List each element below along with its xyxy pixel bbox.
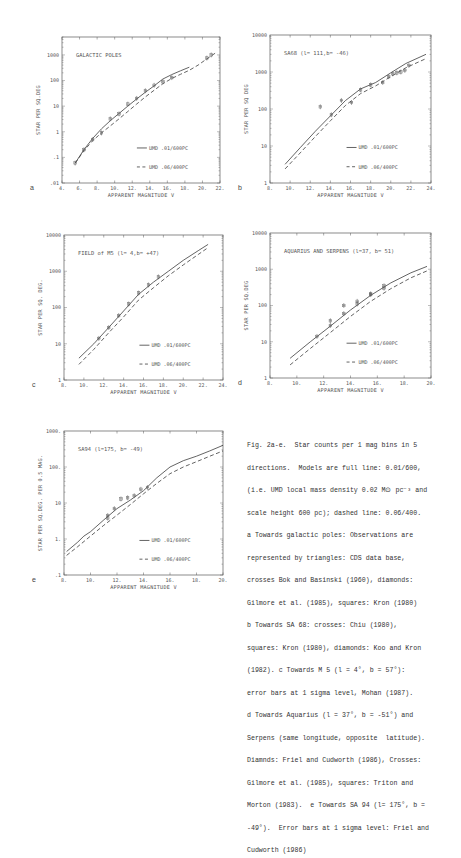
caption-line: Diamnds: Friel and Cudworth (1986), Cros… bbox=[247, 757, 459, 765]
x-tick-label: 16. bbox=[163, 185, 172, 191]
x-tick-label: 24. bbox=[218, 382, 227, 388]
x-tick-label: 14. bbox=[145, 185, 154, 191]
chart-panel-c: 8.10.12.14.16.18.20.22.24.11010010001000… bbox=[32, 232, 228, 395]
x-tick-label: 18. bbox=[159, 382, 168, 388]
legend-solid-label: UMD .01/600PC bbox=[149, 145, 188, 151]
x-tick-label: 10. bbox=[86, 577, 95, 583]
y-axis-title: STAR PER SQ.DEG bbox=[35, 85, 41, 135]
y-axis-title: STAR PER SQ.DEG bbox=[243, 281, 249, 331]
y-tick-label: 1 bbox=[264, 375, 267, 381]
plot-frame bbox=[64, 235, 223, 380]
caption-line: d Towards Aquarius (l = 37°, b = -51°) a… bbox=[247, 712, 459, 720]
caption-line: represented by triangles: CDS data base, bbox=[247, 555, 459, 563]
x-tick-label: 12. bbox=[319, 380, 328, 386]
x-tick-label: 22. bbox=[199, 382, 208, 388]
legend-dashed-label: UMD .06/400PC bbox=[151, 361, 190, 367]
legend-dashed-label: UMD .06/400PC bbox=[359, 359, 398, 365]
plot-frame bbox=[62, 37, 220, 183]
chart-panel-d: 8.10.12.14.16.18.20.110100100010000APPAR… bbox=[238, 230, 436, 393]
caption-line: Morton (1983). e Towards SA 94 (l= 175°,… bbox=[247, 802, 459, 810]
x-tick-label: 10. bbox=[79, 382, 88, 388]
x-tick-label: 8. bbox=[267, 185, 273, 191]
panel-letter: a bbox=[30, 184, 34, 191]
x-tick-label: 14. bbox=[346, 380, 355, 386]
y-tick-label: 10 bbox=[53, 103, 59, 109]
legend-solid-label: UMD .01/600PC bbox=[359, 340, 398, 346]
y-tick-label: 1000 bbox=[49, 268, 61, 274]
x-axis-title: APPARENT MAGNITUDE V bbox=[317, 192, 383, 198]
y-tick-label: .1 bbox=[53, 154, 59, 160]
x-tick-label: 12. bbox=[306, 185, 315, 191]
y-tick-label: 1. bbox=[55, 536, 61, 542]
chart-panel-a: 4.6.8.10.12.14.16.18.20.22..01.111010010… bbox=[30, 37, 225, 198]
model-line-solid bbox=[67, 445, 223, 551]
plot-frame bbox=[270, 233, 431, 378]
chart-panel-b: 8.10.12.14.16.18.20.22.24.11010010001000… bbox=[238, 32, 436, 198]
legend-dashed-label: UMD .06/400PC bbox=[151, 556, 190, 562]
caption-line: Fig. 2a-e. Star counts per 1 mag bins in… bbox=[247, 442, 459, 450]
x-tick-label: 24. bbox=[426, 185, 435, 191]
plot-title: AQUARIUS AND SERPENS (l=37, b= 51) bbox=[284, 248, 394, 254]
x-tick-label: 20. bbox=[386, 185, 395, 191]
y-tick-label: .01 bbox=[50, 180, 59, 186]
plot-title: FIELD of M5 (l= 4,b= +47) bbox=[78, 250, 159, 256]
caption-line: (1982). c Towards M 5 (l = 4°, b = 57°): bbox=[247, 667, 459, 675]
panel-letter: c bbox=[32, 381, 36, 388]
caption-line: error bars at 1 sigma level, Mohan (1987… bbox=[247, 690, 459, 698]
y-tick-label: 10 bbox=[55, 341, 61, 347]
x-tick-label: 8. bbox=[61, 577, 67, 583]
model-line-dashed bbox=[67, 451, 223, 556]
caption-line: directions. Models are full line: 0.01/6… bbox=[247, 465, 459, 473]
y-axis-title: STAR PER SQ. DEG. bbox=[37, 279, 43, 336]
chart-panel-e: 8.10.12.14.16.18.20..11.10100.1000.APPAR… bbox=[32, 428, 228, 590]
x-tick-label: 20. bbox=[198, 185, 207, 191]
y-tick-label: 100 bbox=[258, 302, 267, 308]
x-tick-label: 16. bbox=[346, 185, 355, 191]
y-tick-label: 10 bbox=[55, 500, 61, 506]
caption-line: a Towards galactic poles: Observations a… bbox=[247, 532, 459, 540]
y-tick-label: 1000 bbox=[255, 69, 267, 75]
y-tick-label: 1000. bbox=[46, 428, 61, 434]
x-tick-label: 18. bbox=[400, 380, 409, 386]
x-tick-label: 22. bbox=[406, 185, 415, 191]
y-tick-label: 10000 bbox=[252, 230, 267, 236]
x-tick-label: 10. bbox=[286, 185, 295, 191]
plot-frame bbox=[270, 35, 431, 183]
legend-solid-label: UMD .01/600PC bbox=[151, 342, 190, 348]
y-tick-label: 1 bbox=[264, 180, 267, 186]
plot-frame bbox=[64, 431, 223, 575]
x-tick-label: 12. bbox=[99, 382, 108, 388]
y-axis-title: STAR PER SQ DEG bbox=[243, 84, 249, 134]
y-tick-label: 100 bbox=[50, 77, 59, 83]
x-tick-label: 8. bbox=[61, 382, 67, 388]
caption-line: Cudworth (1986) bbox=[247, 847, 459, 855]
x-tick-label: 12. bbox=[128, 185, 137, 191]
x-tick-label: 6. bbox=[77, 185, 83, 191]
plot-title: SA68 (l= 111,b= -46) bbox=[284, 50, 349, 56]
y-tick-label: 10000 bbox=[252, 32, 267, 38]
caption-line: squares: Kron (1980), diamonds: Koo and … bbox=[247, 645, 459, 653]
panel-letter: b bbox=[238, 184, 242, 191]
x-tick-label: 12. bbox=[112, 577, 121, 583]
x-tick-label: 16. bbox=[165, 577, 174, 583]
y-tick-label: 100. bbox=[49, 464, 61, 470]
caption-line: Gilmore et al. (1985), squares: Triton a… bbox=[247, 780, 459, 788]
x-axis-title: APPARENT MAGNITUDE V bbox=[110, 584, 176, 590]
x-tick-label: 14. bbox=[119, 382, 128, 388]
plot-title: SA94 (l=175, b= -49) bbox=[78, 446, 143, 452]
y-tick-label: 1000 bbox=[47, 52, 59, 58]
x-tick-label: 10. bbox=[110, 185, 119, 191]
model-line-dashed bbox=[290, 271, 427, 365]
y-tick-label: .1 bbox=[55, 572, 61, 578]
legend-solid-label: UMD .01/600PC bbox=[151, 537, 190, 543]
legend-dashed-label: UMD .06/400PC bbox=[359, 164, 398, 170]
y-axis-title: STAR PER SQ.DEG. PER 0.5 MAG. bbox=[37, 455, 43, 551]
model-line-dashed bbox=[285, 59, 426, 169]
legend-solid-label: UMD .01/600PC bbox=[359, 144, 398, 150]
panel-letter: e bbox=[32, 576, 36, 583]
caption-line: scale height 600 pc); dashed line: 0.06/… bbox=[247, 510, 459, 518]
figure-caption: Fig. 2a-e. Star counts per 1 mag bins in… bbox=[247, 427, 459, 858]
caption-line: b Towards SA 68: crosses: Chiu (1980), bbox=[247, 622, 459, 630]
y-tick-label: 10 bbox=[261, 339, 267, 345]
x-axis-title: APPARENT MAGNITUDE V bbox=[108, 192, 174, 198]
